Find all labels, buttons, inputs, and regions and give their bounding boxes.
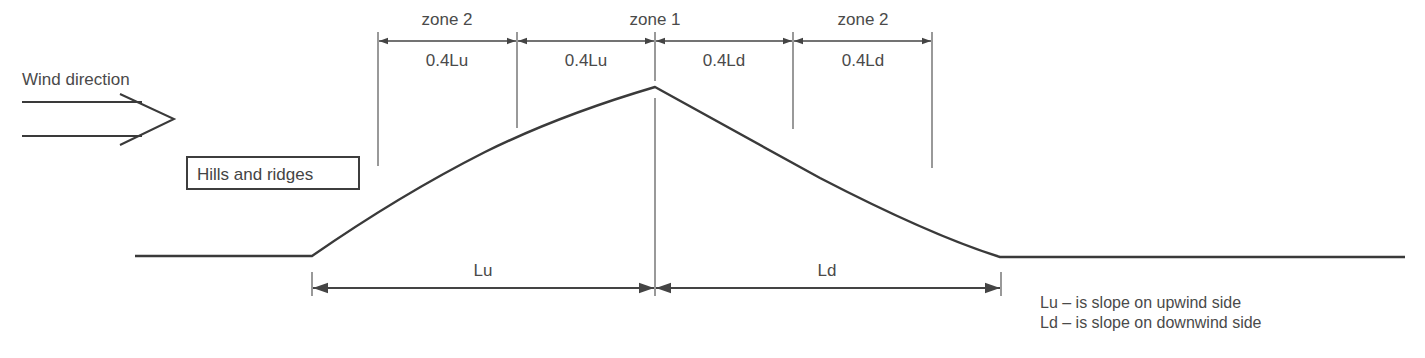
hills-and-ridges-box: Hills and ridges — [186, 156, 360, 190]
downwind-slope-label: Ld — [818, 262, 837, 279]
hills-and-ridges-label: Hills and ridges — [197, 165, 313, 185]
legend-item-downwind: Ld – is slope on downwind side — [1040, 313, 1261, 333]
zone-1-label: zone 1 — [629, 11, 680, 28]
upwind-slope-label: Lu — [474, 262, 493, 279]
zone-2-right-label: zone 2 — [837, 11, 888, 28]
segment-label-2: 0.4Lu — [565, 52, 608, 69]
zone-boundary-lines — [312, 32, 1001, 296]
legend-item-upwind: Lu – is slope on upwind side — [1040, 293, 1261, 313]
wind-direction-label: Wind direction — [22, 71, 130, 88]
wind-direction-arrow-icon — [22, 94, 174, 145]
segment-label-4: 0.4Ld — [842, 52, 885, 69]
segment-label-3: 0.4Ld — [703, 52, 746, 69]
legend: Lu – is slope on upwind side Ld – is slo… — [1040, 293, 1261, 333]
segment-label-1: 0.4Lu — [426, 52, 469, 69]
zone-2-left-label: zone 2 — [421, 11, 472, 28]
